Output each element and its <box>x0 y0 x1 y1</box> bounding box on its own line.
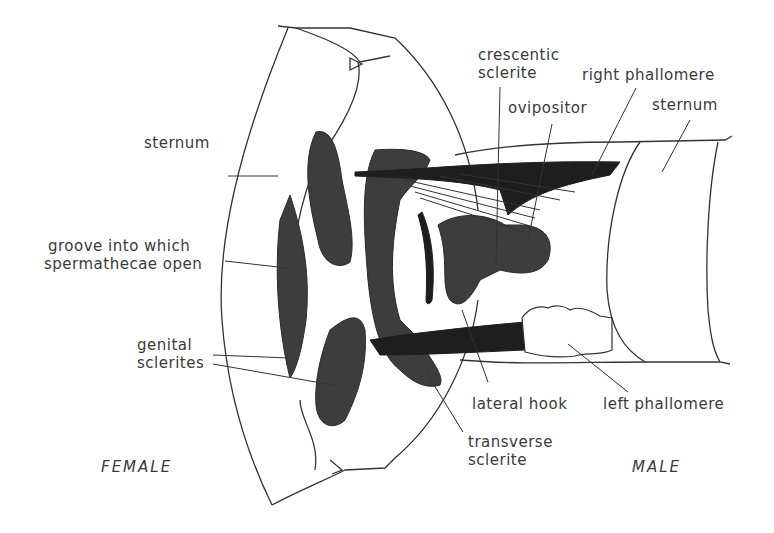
label-transverse-line1: transverse <box>468 433 553 451</box>
left-phallomere-tip <box>522 306 612 357</box>
female-upper-sclerite <box>308 132 352 266</box>
female-left-sclerite <box>277 195 307 378</box>
label-ovipositor: ovipositor <box>508 99 587 117</box>
label-female: FEMALE <box>101 458 172 476</box>
female-lower-sclerite <box>316 318 366 426</box>
label-genital-line2: sclerites <box>137 354 204 372</box>
label-right-phallomere: right phallomere <box>582 66 715 84</box>
inner-sclerites <box>438 216 550 304</box>
label-genital-line1: genital <box>137 336 192 354</box>
label-sternum-male: sternum <box>652 96 718 114</box>
label-left-phallomere: left phallomere <box>603 395 724 413</box>
label-crescentic-line2: sclerite <box>478 64 537 82</box>
crescent-dark <box>418 212 433 304</box>
label-sternum-female: sternum <box>144 134 210 152</box>
label-male: MALE <box>632 458 681 476</box>
label-groove-line2: spermathecae open <box>44 255 202 273</box>
female-sternum-outline <box>221 26 478 505</box>
label-lateral-hook: lateral hook <box>472 395 567 413</box>
label-transverse-line2: sclerite <box>468 451 527 469</box>
label-crescentic-line1: crescentic <box>478 46 559 64</box>
diagram-figure: sternum groove into which spermathecae o… <box>0 0 774 533</box>
label-groove-line1: groove into which <box>48 237 190 255</box>
